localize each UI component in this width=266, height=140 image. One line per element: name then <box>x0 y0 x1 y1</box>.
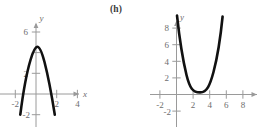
left-ytick-label--2: -2 <box>23 110 31 120</box>
left-parabola-curve <box>20 47 55 115</box>
right-ytick-label-2: 2 <box>165 73 170 83</box>
right-xtick-label-2: 2 <box>191 100 196 110</box>
right-ytick-label-8: 8 <box>165 23 170 33</box>
left-x-axis-label: x <box>82 89 87 99</box>
right-xtick-label-6: 6 <box>224 100 229 110</box>
left-xtick-label-4: 4 <box>75 99 80 109</box>
left-y-axis-label: y <box>39 13 44 23</box>
right-graph: -2 2 4 6 8 2 4 6 8 -2 y <box>150 12 257 128</box>
parabola-figure-svg: -2 2 4 2 6 -2 x y <box>0 0 266 140</box>
right-xtick-label-4: 4 <box>207 100 212 110</box>
figure-panel: (h) -2 2 4 2 6 -2 <box>0 0 266 140</box>
left-ytick-label-6: 6 <box>24 27 29 37</box>
right-ytick-label--2: -2 <box>164 107 172 117</box>
right-x-axis-arrow <box>252 92 258 97</box>
right-ytick-label-6: 6 <box>165 40 170 50</box>
left-xtick-label-2: 2 <box>54 99 59 109</box>
right-y-axis-label: y <box>179 12 184 22</box>
right-parabola-curve <box>177 16 223 93</box>
left-y-axis-arrow <box>34 23 39 29</box>
left-xtick-label--2: -2 <box>12 99 20 109</box>
left-x-axis-arrow <box>74 92 80 97</box>
right-xtick-label-8: 8 <box>241 100 246 110</box>
left-graph: -2 2 4 2 6 -2 x y <box>0 13 87 127</box>
right-ytick-label-4: 4 <box>165 57 170 67</box>
